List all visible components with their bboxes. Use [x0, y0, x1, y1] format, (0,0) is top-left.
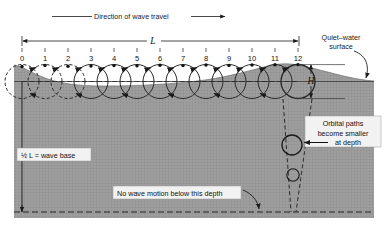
wavelength-dimension: L: [22, 36, 299, 46]
wave-base-callout: ½ L = wave base: [17, 148, 91, 161]
position-label-10: 10: [248, 54, 256, 63]
position-label-4: 4: [112, 54, 116, 63]
position-label-8: 8: [204, 54, 208, 63]
particle-dot-4: [112, 64, 115, 67]
quiet-water-label-line1: Quiet–water: [322, 33, 361, 42]
position-label-2: 2: [66, 54, 70, 63]
particle-dot-1: [43, 64, 46, 67]
direction-of-travel-annotation: Direction of wave travel: [52, 12, 225, 21]
wave-height-symbol: H: [307, 76, 316, 86]
particle-dot-7: [181, 64, 184, 67]
quiet-water-leader-arrow: [354, 51, 367, 78]
quiet-water-label-line2: surface: [329, 42, 353, 51]
particle-dot-6: [158, 63, 161, 66]
particle-dot-0: [20, 65, 23, 68]
particle-dot-10: [250, 63, 253, 66]
particle-dot-5: [135, 64, 138, 67]
position-ticks: [22, 48, 298, 52]
position-label-9: 9: [227, 54, 231, 63]
position-number-scale: 0 1 2 3 4 5 6 7 8 9 10 11 12: [20, 48, 302, 63]
orbit-rotation-arrows: [30, 68, 289, 71]
quiet-water-callout: Quiet–water surface: [322, 33, 368, 78]
orbital-label-line1: Orbital paths: [323, 119, 364, 128]
figure-canvas: Direction of wave travel L 0 1 2 3: [0, 0, 388, 242]
orbital-paths-callout: Orbital paths become smaller at depth: [304, 116, 381, 147]
position-label-3: 3: [89, 54, 93, 63]
particle-dot-3: [89, 64, 92, 67]
particle-dot-2: [66, 65, 69, 68]
position-label-12: 12: [294, 54, 302, 63]
particle-dot-8: [204, 63, 207, 66]
wave-base-label: ½ L = wave base: [21, 151, 75, 160]
no-motion-label: No wave motion below this depth: [117, 189, 222, 198]
position-label-0: 0: [20, 54, 24, 63]
orbital-label-line3: at depth: [335, 138, 361, 147]
position-label-5: 5: [135, 54, 139, 63]
direction-of-travel-label: Direction of wave travel: [94, 12, 169, 21]
particle-dot-9: [227, 64, 230, 67]
particle-dot-11: [273, 63, 276, 66]
orbital-label-line2: become smaller: [318, 129, 369, 138]
position-label-6: 6: [158, 54, 162, 63]
wave-orbital-diagram: Direction of wave travel L 0 1 2 3: [0, 0, 388, 242]
wavelength-symbol: L: [149, 36, 155, 46]
position-label-7: 7: [181, 54, 185, 63]
position-label-1: 1: [43, 54, 47, 63]
position-label-11: 11: [271, 54, 279, 63]
